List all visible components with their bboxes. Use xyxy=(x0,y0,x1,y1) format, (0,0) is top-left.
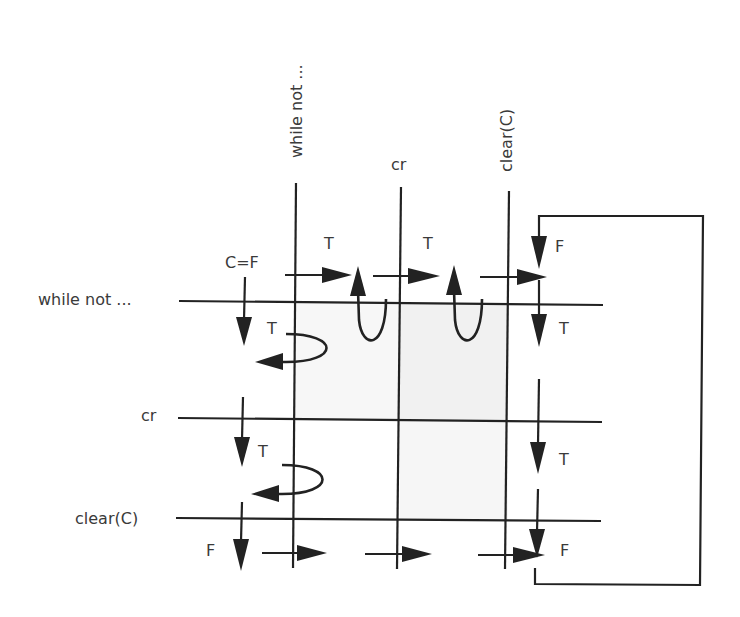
right-arrow-icon xyxy=(322,267,352,283)
right-arrow-icon xyxy=(402,546,432,562)
up-arrow-icon xyxy=(350,266,366,296)
right-arrow-icon xyxy=(297,545,327,561)
up-arrow-icon xyxy=(446,265,462,295)
left-flow-line-1 xyxy=(244,277,245,320)
left-edge-label-3: F xyxy=(206,541,215,560)
left-edge-label-2: T xyxy=(257,442,268,461)
loop-back-curve-2 xyxy=(272,465,323,494)
initial-condition-label: C=F xyxy=(225,253,259,272)
shaded-cell-cr-clear xyxy=(400,421,508,519)
left-flow-line-2 xyxy=(242,397,243,440)
right-arrow-icon xyxy=(517,269,547,285)
row-label-clear: clear(C) xyxy=(75,509,138,528)
down-arrow-icon xyxy=(531,314,547,347)
right-arrow-icon xyxy=(513,547,545,563)
right-arrow-icon xyxy=(408,268,440,284)
left-arrow-icon xyxy=(251,485,279,502)
left-arrow-icon xyxy=(255,353,283,370)
right-edge-label-2: T xyxy=(558,450,569,469)
right-edge-label-1: T xyxy=(558,319,569,338)
down-arrow-icon xyxy=(236,317,252,346)
left-edge-label-1: T xyxy=(266,319,277,338)
down-arrow-icon xyxy=(531,236,547,269)
down-arrow-icon xyxy=(233,539,249,571)
down-arrow-icon xyxy=(530,442,546,474)
row-label-while: while not ... xyxy=(38,290,132,309)
outer-loop-bracket xyxy=(535,216,703,585)
right-edge-label-3: F xyxy=(560,541,569,560)
top-edge-label-1: T xyxy=(323,234,334,253)
left-flow-line-3 xyxy=(241,502,242,542)
column-label-while: while not ... xyxy=(287,64,306,158)
right-flow-line-3 xyxy=(537,489,538,532)
right-flow-line-2 xyxy=(538,379,539,444)
control-flow-matrix-diagram: while not ... cr clear(C) while not ... … xyxy=(0,0,740,617)
loop-top-label: F xyxy=(555,237,564,256)
top-edge-label-2: T xyxy=(422,234,433,253)
grid-column-while xyxy=(293,183,296,568)
down-arrow-icon xyxy=(234,437,250,467)
row-label-cr: cr xyxy=(141,406,157,425)
column-label-cr: cr xyxy=(391,155,407,174)
column-label-clear: clear(C) xyxy=(497,109,516,172)
